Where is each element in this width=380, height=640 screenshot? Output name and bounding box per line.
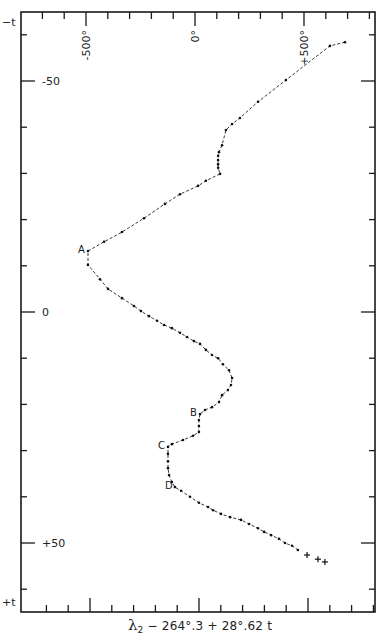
x-axis-symbol: λ bbox=[128, 616, 138, 634]
data-point bbox=[291, 544, 294, 547]
data-point bbox=[207, 506, 210, 509]
data-curve bbox=[88, 42, 345, 550]
x-axis-formula: − 264°.3 + 28°.62 t bbox=[144, 619, 273, 633]
data-point bbox=[179, 193, 182, 196]
data-point bbox=[186, 336, 189, 339]
data-point bbox=[148, 315, 151, 318]
data-point bbox=[198, 502, 201, 505]
data-point bbox=[217, 159, 220, 162]
data-point bbox=[329, 45, 332, 48]
plot-frame bbox=[21, 12, 375, 612]
data-point bbox=[205, 179, 208, 182]
chart-plot: -500°0°+500°-500+50 −t +t ABCD bbox=[0, 0, 380, 640]
data-point bbox=[284, 542, 287, 545]
data-point bbox=[121, 297, 124, 300]
point-annotations: ABCD bbox=[78, 244, 197, 491]
data-point bbox=[217, 163, 220, 166]
data-point bbox=[212, 509, 215, 512]
data-point bbox=[230, 384, 233, 387]
data-point bbox=[257, 527, 260, 530]
data-point bbox=[164, 203, 167, 206]
y-axis-label-bottom: +t bbox=[2, 596, 16, 609]
y-tick-label: 0 bbox=[42, 306, 49, 319]
data-point bbox=[217, 357, 220, 360]
data-point bbox=[189, 496, 192, 499]
y-axis-label-top: −t bbox=[2, 16, 16, 29]
data-point bbox=[167, 446, 170, 449]
data-point bbox=[231, 377, 234, 380]
data-point bbox=[167, 460, 170, 463]
data-point bbox=[219, 173, 222, 176]
data-point bbox=[227, 389, 230, 392]
annotation-c: C bbox=[158, 440, 165, 451]
data-point bbox=[163, 324, 166, 327]
data-point bbox=[167, 467, 170, 470]
data-point bbox=[99, 278, 102, 281]
annotation-a: A bbox=[78, 244, 85, 255]
data-point bbox=[221, 394, 224, 397]
data-point bbox=[211, 406, 214, 409]
annotation-b: B bbox=[190, 407, 197, 418]
data-point bbox=[205, 349, 208, 352]
data-point bbox=[285, 79, 288, 82]
data-point bbox=[133, 305, 136, 308]
data-point bbox=[231, 123, 234, 126]
data-point bbox=[143, 217, 146, 220]
data-point bbox=[168, 474, 171, 477]
data-point bbox=[211, 354, 214, 357]
data-point bbox=[198, 425, 201, 428]
data-point bbox=[222, 363, 225, 366]
data-point bbox=[278, 538, 281, 541]
x-tick-label: -500° bbox=[80, 30, 93, 60]
data-point bbox=[103, 240, 106, 243]
data-point bbox=[156, 319, 159, 322]
data-point bbox=[198, 419, 201, 422]
data-point bbox=[270, 534, 273, 537]
data-point bbox=[240, 519, 243, 522]
data-markers bbox=[87, 41, 347, 565]
axis-ticks bbox=[21, 12, 375, 612]
data-point bbox=[87, 250, 90, 253]
data-point bbox=[344, 41, 347, 44]
axis-tick-labels: -500°0°+500°-500+50 bbox=[42, 30, 311, 550]
data-point bbox=[140, 310, 143, 313]
x-tick-label: +500° bbox=[298, 30, 311, 66]
data-point bbox=[204, 409, 207, 412]
data-point bbox=[171, 443, 174, 446]
x-axis-label: λ2 − 264°.3 + 28°.62 t bbox=[0, 616, 380, 635]
data-point bbox=[229, 516, 232, 519]
data-point bbox=[248, 523, 251, 526]
data-point bbox=[239, 117, 242, 120]
data-point bbox=[225, 129, 228, 132]
data-point bbox=[167, 453, 170, 456]
data-point bbox=[218, 401, 221, 404]
data-point bbox=[107, 288, 110, 291]
data-point bbox=[87, 264, 90, 267]
data-point bbox=[174, 486, 177, 489]
data-point bbox=[197, 185, 200, 188]
data-point bbox=[297, 549, 300, 552]
x-tick-label: 0° bbox=[189, 30, 202, 43]
data-point bbox=[221, 144, 224, 147]
data-point bbox=[171, 327, 174, 330]
data-point bbox=[217, 155, 220, 158]
data-point bbox=[182, 439, 185, 442]
annotation-d: D bbox=[165, 480, 173, 491]
data-point bbox=[220, 513, 223, 516]
data-point bbox=[199, 413, 202, 416]
data-point bbox=[218, 151, 221, 154]
data-point bbox=[228, 369, 231, 372]
data-point bbox=[198, 431, 201, 434]
data-point bbox=[179, 331, 182, 334]
data-point bbox=[121, 231, 124, 234]
data-point bbox=[263, 531, 266, 534]
y-tick-label: +50 bbox=[42, 537, 65, 550]
y-tick-label: -50 bbox=[42, 75, 60, 88]
data-point bbox=[193, 340, 196, 343]
data-point bbox=[199, 343, 202, 346]
data-point bbox=[192, 435, 195, 438]
data-point bbox=[257, 100, 260, 103]
data-point bbox=[217, 167, 220, 170]
data-point bbox=[180, 489, 183, 492]
